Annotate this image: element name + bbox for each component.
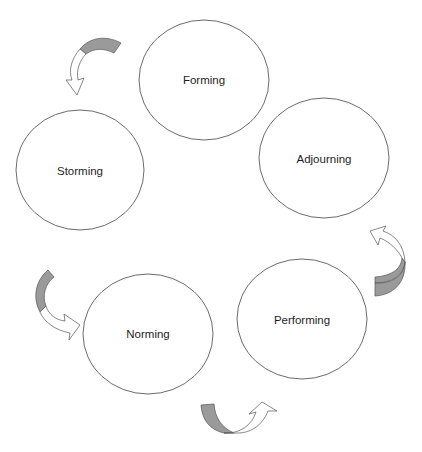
- stage-storming: Storming: [16, 110, 144, 230]
- stage-forming: Forming: [139, 20, 269, 140]
- stage-adjourning: Adjourning: [259, 98, 389, 218]
- team-development-cycle-diagram: Forming Storming Adjourning Norming Perf…: [0, 0, 422, 452]
- stage-forming-label: Forming: [183, 74, 225, 86]
- stage-performing-label: Performing: [274, 314, 330, 326]
- stage-adjourning-label: Adjourning: [297, 153, 352, 165]
- curved-arrow-forming-to-storming-icon: [66, 38, 121, 95]
- stage-norming-label: Norming: [126, 328, 169, 340]
- curved-arrow-storming-to-norming-icon: [36, 270, 80, 340]
- stage-storming-label: Storming: [57, 165, 103, 177]
- curved-arrow-performing-to-adjourning-icon: [370, 226, 405, 296]
- stage-performing: Performing: [237, 259, 367, 379]
- curved-arrow-norming-to-performing-icon: [201, 402, 277, 433]
- stage-norming: Norming: [83, 274, 213, 394]
